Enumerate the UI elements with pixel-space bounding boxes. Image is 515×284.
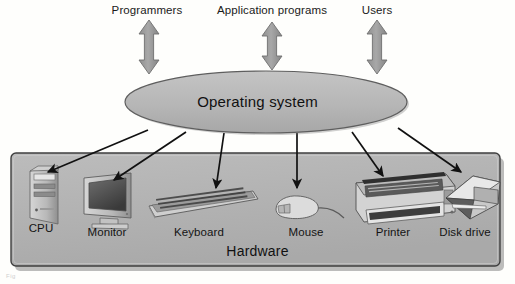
label-programmers: Programmers: [92, 4, 202, 16]
users-arrow-icon: [367, 20, 387, 74]
device-label-monitor: Monitor: [67, 226, 147, 238]
programmers-arrow-icon: [139, 20, 159, 74]
device-label-mouse: Mouse: [267, 226, 345, 238]
caption-fragment: Fig: [6, 273, 16, 279]
label-application-programs: Application programs: [192, 4, 352, 16]
diagram-graphics: [0, 0, 515, 284]
diagram-canvas: Programmers Application programs Users O…: [0, 0, 515, 284]
cpu-tower-icon: [30, 166, 58, 224]
device-label-disk-drive: Disk drive: [423, 226, 507, 238]
application-programs-arrow-icon: [262, 22, 282, 70]
device-label-printer: Printer: [355, 226, 431, 238]
hardware-label: Hardware: [0, 243, 515, 259]
operating-system-label: Operating system: [0, 93, 515, 110]
label-users: Users: [337, 4, 417, 16]
top-arrows: [139, 20, 387, 74]
printer-icon: [356, 172, 455, 224]
device-label-keyboard: Keyboard: [155, 226, 243, 238]
